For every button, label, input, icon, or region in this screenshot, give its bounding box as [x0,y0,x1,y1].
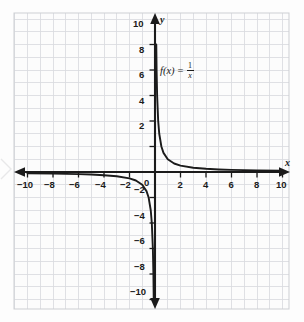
y-tick-label--10: −10 [130,287,146,297]
x-tick-label-10: 10 [276,180,287,190]
function-name: f(x) [160,66,175,77]
fraction-numerator: 1 [187,62,193,70]
graph-figure: −10 −8 −6 −4 −2 0 2 4 6 8 10 10 8 6 4 2 … [0,0,304,322]
fraction-one-over-x: 1 x [187,62,194,81]
x-tick-label-8: 8 [254,180,259,190]
y-tick-label-4: 4 [139,96,144,106]
x-axis-label: x [285,158,290,168]
y-tick-label--4: −4 [134,211,145,221]
x-tick-label--10: −10 [17,180,33,190]
y-tick-label--2: −2 [134,185,145,195]
fraction-denominator: x [187,72,193,80]
x-tick-label--6: −6 [69,180,80,190]
y-axis-label: y [160,15,164,25]
y-tick-label--6: −6 [134,236,145,246]
y-tick-label-8: 8 [139,45,144,55]
y-tick-label-10: 10 [133,19,144,29]
x-tick-label-6: 6 [229,180,234,190]
y-tick-label--8: −8 [134,262,145,272]
function-annotation: f(x) = 1 x [160,62,194,81]
y-tick-label-6: 6 [139,70,144,80]
y-tick-label-2: 2 [139,121,144,131]
x-tick-label-4: 4 [203,180,208,190]
x-tick-label--4: −4 [95,180,106,190]
x-tick-label--2: −2 [120,180,131,190]
x-tick-label-2: 2 [178,180,183,190]
coordinate-plane [0,0,304,322]
x-tick-label--8: −8 [44,180,55,190]
equals-sign: = [178,66,184,77]
